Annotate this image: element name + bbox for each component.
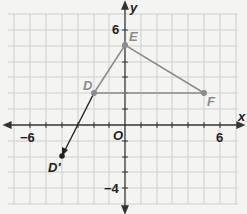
x-tick-label-6: 6	[216, 130, 223, 145]
y-tick-label-6: 6	[112, 22, 119, 37]
x-tick-label-neg6: −6	[20, 130, 35, 145]
y-axis	[122, 2, 128, 213]
coordinate-plane: y x O −6 6 6 −4 D E F D′	[0, 0, 247, 214]
label-d: D	[83, 78, 93, 93]
origin-label: O	[113, 128, 123, 143]
label-e: E	[129, 29, 138, 44]
x-axis-label: x	[237, 109, 246, 124]
point-d-prime	[59, 153, 65, 159]
x-axis	[4, 122, 244, 128]
y-axis-label: y	[129, 0, 138, 15]
y-tick-label-neg4: −4	[104, 181, 120, 196]
label-d-prime: D′	[48, 160, 61, 175]
label-f: F	[207, 94, 216, 109]
point-e	[122, 42, 128, 48]
